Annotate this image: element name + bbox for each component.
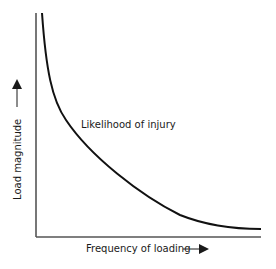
curve-label: Likelihood of injury xyxy=(81,119,176,130)
chart-canvas: Likelihood of injury Frequency of loadin… xyxy=(0,0,276,269)
x-axis-label: Frequency of loading xyxy=(86,243,191,254)
y-axis-label: Load magnitude xyxy=(12,119,23,200)
y-axis-arrow-icon xyxy=(12,79,22,107)
